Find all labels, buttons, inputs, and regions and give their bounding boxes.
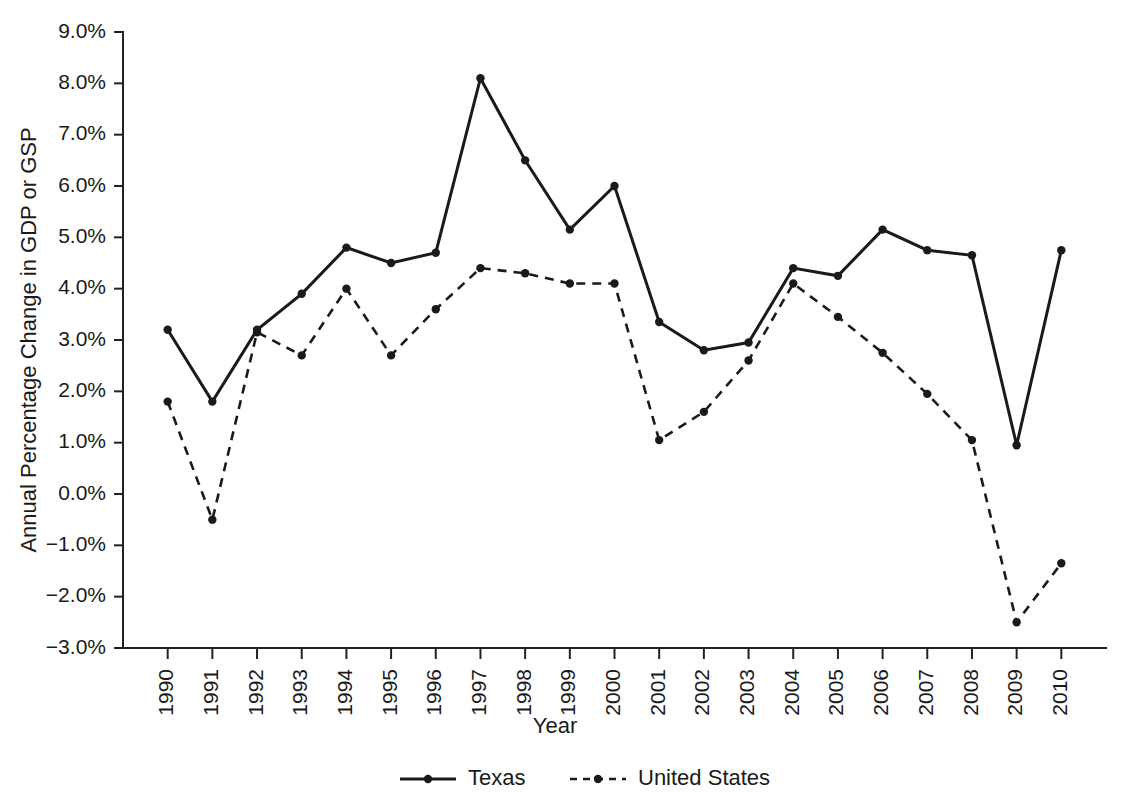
x-tick-label: 1995: [378, 669, 401, 716]
data-point-united-states-2001: [655, 436, 663, 444]
data-point-united-states-1993: [298, 351, 306, 359]
data-point-united-states-1999: [566, 279, 574, 287]
data-point-texas-2005: [834, 272, 842, 280]
data-point-texas-1994: [342, 243, 350, 251]
x-tick-label: 1992: [244, 669, 267, 716]
data-point-united-states-1992: [253, 328, 261, 336]
data-point-texas-1995: [387, 259, 395, 267]
chart-legend: TexasUnited States: [400, 765, 770, 790]
data-point-united-states-2002: [700, 408, 708, 416]
chart-figure: 9.0%8.0%7.0%6.0%5.0%4.0%3.0%2.0%1.0%0.0%…: [0, 0, 1124, 798]
data-point-united-states-1990: [163, 397, 171, 405]
series-line-united-states: [168, 268, 1062, 622]
data-point-texas-2010: [1057, 246, 1065, 254]
x-tick-label: 2001: [646, 669, 669, 716]
data-point-united-states-1994: [342, 284, 350, 292]
data-point-united-states-2010: [1057, 559, 1065, 567]
x-tick-label: 1993: [288, 669, 311, 716]
y-tick-label: 4.0%: [58, 275, 106, 298]
data-point-united-states-2003: [744, 356, 752, 364]
data-point-united-states-1998: [521, 269, 529, 277]
y-tick-label: 9.0%: [58, 19, 106, 42]
data-point-texas-1999: [566, 225, 574, 233]
data-point-texas-1990: [163, 326, 171, 334]
data-point-texas-2006: [878, 225, 886, 233]
y-tick-label: −3.0%: [46, 635, 106, 658]
x-tick-label: 1990: [154, 669, 177, 716]
x-tick-label: 1998: [512, 669, 535, 716]
data-point-united-states-2009: [1012, 618, 1020, 626]
x-tick-label: 2009: [1003, 669, 1026, 716]
legend-item-texas[interactable]: Texas: [400, 765, 525, 790]
legend-label: United States: [638, 765, 770, 790]
legend-label: Texas: [468, 765, 525, 790]
y-tick-label: 5.0%: [58, 224, 106, 247]
line-chart-canvas: 9.0%8.0%7.0%6.0%5.0%4.0%3.0%2.0%1.0%0.0%…: [0, 0, 1124, 798]
y-tick-label: 8.0%: [58, 70, 106, 93]
data-point-texas-1996: [432, 249, 440, 257]
series-group: [163, 74, 1065, 627]
data-point-texas-1997: [476, 74, 484, 82]
x-axis-ticks: 1990199119921993199419951996199719981999…: [154, 648, 1071, 716]
x-tick-label: 1994: [333, 669, 356, 716]
y-axis-title: Annual Percentage Change in GDP or GSP: [16, 127, 41, 552]
x-tick-label: 1991: [199, 669, 222, 716]
data-point-texas-1991: [208, 397, 216, 405]
data-point-texas-2003: [744, 338, 752, 346]
x-tick-label: 2004: [780, 669, 803, 716]
data-point-texas-2007: [923, 246, 931, 254]
data-point-texas-2002: [700, 346, 708, 354]
data-point-united-states-1995: [387, 351, 395, 359]
data-point-texas-2008: [968, 251, 976, 259]
x-tick-label: 2007: [914, 669, 937, 716]
x-tick-label: 1997: [467, 669, 490, 716]
data-point-texas-1998: [521, 156, 529, 164]
x-tick-label: 1999: [556, 669, 579, 716]
data-point-united-states-1996: [432, 305, 440, 313]
data-point-united-states-1997: [476, 264, 484, 272]
y-tick-label: 7.0%: [58, 121, 106, 144]
data-point-united-states-1991: [208, 515, 216, 523]
x-tick-label: 2010: [1048, 669, 1071, 716]
legend-swatch-marker: [594, 775, 602, 783]
x-tick-label: 1996: [422, 669, 445, 716]
x-axis-title: Year: [533, 713, 577, 738]
y-tick-label: −2.0%: [46, 583, 106, 606]
data-point-united-states-2000: [610, 279, 618, 287]
data-point-united-states-2006: [878, 349, 886, 357]
y-tick-label: 6.0%: [58, 173, 106, 196]
y-tick-label: 0.0%: [58, 481, 106, 504]
data-point-texas-1993: [298, 290, 306, 298]
x-tick-label: 2002: [690, 669, 713, 716]
y-axis-ticks: 9.0%8.0%7.0%6.0%5.0%4.0%3.0%2.0%1.0%0.0%…: [46, 19, 123, 658]
data-point-texas-2000: [610, 182, 618, 190]
x-tick-label: 2008: [959, 669, 982, 716]
y-tick-label: −1.0%: [46, 532, 106, 555]
legend-swatch-marker: [424, 775, 432, 783]
x-tick-label: 2006: [869, 669, 892, 716]
y-tick-label: 3.0%: [58, 327, 106, 350]
data-point-united-states-2008: [968, 436, 976, 444]
data-point-united-states-2007: [923, 390, 931, 398]
y-tick-label: 2.0%: [58, 378, 106, 401]
x-tick-label: 2003: [735, 669, 758, 716]
x-tick-label: 2005: [824, 669, 847, 716]
data-point-texas-2001: [655, 318, 663, 326]
x-tick-label: 2000: [601, 669, 624, 716]
y-tick-label: 1.0%: [58, 429, 106, 452]
data-point-texas-2004: [789, 264, 797, 272]
data-point-united-states-2005: [834, 313, 842, 321]
legend-item-united-states[interactable]: United States: [570, 765, 770, 790]
data-point-united-states-2004: [789, 279, 797, 287]
data-point-texas-2009: [1012, 441, 1020, 449]
